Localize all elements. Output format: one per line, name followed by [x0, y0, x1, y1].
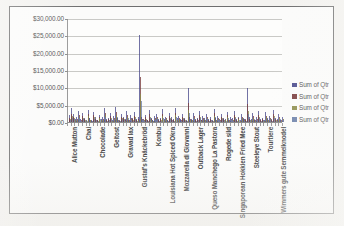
x-axis-tick — [271, 123, 272, 126]
y-axis-tick-label: $5,000.00 — [10, 102, 64, 109]
y-axis-tick-label: $15,000.00 — [10, 67, 64, 74]
x-axis-category-label: Alice Mutton — [71, 127, 78, 163]
x-axis-tick — [249, 123, 250, 126]
x-axis-tick — [230, 123, 231, 126]
legend-label: Sum of Qtr — [299, 81, 329, 88]
y-axis-tick — [65, 36, 68, 37]
x-axis-tick — [275, 123, 276, 126]
y-axis-tick-label: $20,000.00 — [10, 50, 64, 57]
legend-item[interactable]: Sum of Qtr — [292, 91, 344, 103]
x-axis-category-label: Tourtiere — [267, 127, 274, 152]
x-axis-category-label: Rogede sild — [225, 127, 232, 161]
x-axis-tick — [167, 123, 168, 126]
x-axis-tick — [223, 123, 224, 126]
x-axis-tick — [215, 123, 216, 126]
x-axis-tick — [238, 123, 239, 126]
x-axis-tick — [178, 123, 179, 126]
x-axis-tick — [241, 123, 242, 126]
x-axis-tick — [212, 123, 213, 126]
bar-series-container[interactable] — [69, 19, 282, 122]
x-axis-tick — [130, 123, 131, 126]
x-axis-category-label: Mozzarella di Giovanni — [183, 127, 190, 192]
x-axis-category-label: Steeleye Stout — [253, 127, 260, 168]
x-axis-tick — [282, 123, 283, 126]
x-axis-tick — [156, 123, 157, 126]
x-axis-tick — [263, 123, 264, 126]
legend-swatch-icon — [292, 106, 297, 111]
x-axis-tick — [126, 123, 127, 126]
x-axis-tick — [189, 123, 190, 126]
x-axis-tick — [74, 123, 75, 126]
chart-frame[interactable]: $30,000.00$25,000.00$20,000.00$15,000.00… — [9, 6, 334, 214]
y-axis-tick — [65, 54, 68, 55]
legend-swatch-icon — [292, 94, 297, 99]
y-axis-tick — [65, 88, 68, 89]
x-axis-tick — [252, 123, 253, 126]
x-axis-tick — [141, 123, 142, 126]
x-axis-tick — [208, 123, 209, 126]
x-axis-tick — [137, 123, 138, 126]
legend-item[interactable]: Sum of Qtr — [292, 79, 344, 91]
x-axis-tick — [67, 123, 68, 126]
x-axis-category-label: Konbu — [155, 127, 162, 146]
x-axis-tick — [119, 123, 120, 126]
x-axis-tick — [256, 123, 257, 126]
x-axis-category-label: Queso Manchego La Pastora — [211, 127, 218, 210]
y-axis-tick-label: $30,000.00 — [10, 15, 64, 22]
x-axis-tick — [78, 123, 79, 126]
x-axis-tick — [234, 123, 235, 126]
x-axis-tick — [149, 123, 150, 126]
x-axis-tick — [182, 123, 183, 126]
x-axis-tick — [104, 123, 105, 126]
x-axis-tick — [278, 123, 279, 126]
x-axis-tick — [71, 123, 72, 126]
x-axis-tick — [219, 123, 220, 126]
legend-label: Sum of Qtr — [299, 116, 329, 123]
x-axis-tick — [171, 123, 172, 126]
x-axis-tick — [197, 123, 198, 126]
x-axis-category-label: Singaporean Hokkien Fried Mee — [239, 127, 246, 218]
x-axis-tick — [152, 123, 153, 126]
x-axis-tick — [115, 123, 116, 126]
legend-label: Sum of Qtr — [299, 104, 329, 111]
x-axis-tick — [204, 123, 205, 126]
x-axis-tick — [123, 123, 124, 126]
y-axis-tick — [65, 71, 68, 72]
x-axis-category-label: Louisiana Hot Spiced Okra — [169, 127, 176, 203]
x-axis-tick — [145, 123, 146, 126]
x-axis-tick — [226, 123, 227, 126]
x-axis-tick — [89, 123, 90, 126]
x-axis-category-label: Gustaf's Knäckebröd — [141, 127, 148, 187]
bar[interactable] — [283, 120, 284, 122]
x-axis-labels: Alice MuttonChaiChocoladeGeitostGravad l… — [67, 127, 282, 213]
x-axis-tick — [267, 123, 268, 126]
x-axis-tick — [108, 123, 109, 126]
x-axis-category-label: Geitost — [113, 127, 120, 148]
x-axis-tick — [245, 123, 246, 126]
x-axis-category-label: Wimmers gute Semmelknodel — [280, 127, 287, 213]
legend-item[interactable]: Sum of Qtr — [292, 102, 344, 114]
y-axis-tick-label: $10,000.00 — [10, 84, 64, 91]
legend-swatch-icon — [292, 117, 297, 122]
legend-item[interactable]: Sum of Qtr — [292, 114, 344, 126]
x-axis-tick — [82, 123, 83, 126]
x-axis-tick — [86, 123, 87, 126]
y-axis-tick-label: $0.00 — [10, 119, 64, 126]
plot-area[interactable] — [67, 19, 282, 123]
y-axis-tick — [65, 19, 68, 20]
x-axis-tick — [93, 123, 94, 126]
chart-legend[interactable]: Sum of QtrSum of QtrSum of QtrSum of Qtr — [292, 79, 344, 125]
x-axis-tick — [175, 123, 176, 126]
x-axis-tick — [160, 123, 161, 126]
x-axis-tick — [163, 123, 164, 126]
x-axis-tick — [111, 123, 112, 126]
x-axis-category-label: Chai — [85, 127, 92, 140]
x-axis-tick — [186, 123, 187, 126]
x-axis-tick — [100, 123, 101, 126]
y-axis-tick-label: $25,000.00 — [10, 32, 64, 39]
x-axis-category-label: Gravad lax — [127, 127, 134, 158]
x-axis-tick — [134, 123, 135, 126]
x-axis-tick — [200, 123, 201, 126]
legend-swatch-icon — [292, 83, 297, 88]
x-axis-category-label: Chocolade — [99, 127, 106, 158]
